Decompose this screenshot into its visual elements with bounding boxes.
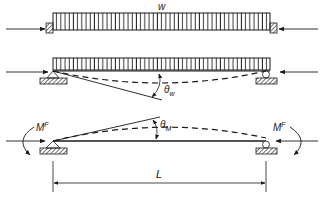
fixed-support-right [270,23,277,33]
panel-fixed-end-beam: w [6,1,318,33]
load-label-w: w [158,1,166,12]
panel-moment-rotation: θM MF MF L [6,117,318,192]
roller-support-right [263,141,270,148]
ground-hatch-right [256,78,277,84]
fixed-support-left [46,23,53,33]
ground-hatch-right [256,148,277,154]
uniform-load-block [53,58,270,70]
moment-label-right: MF [273,121,286,133]
pin-support-left [46,141,60,148]
ground-hatch-left [40,148,67,154]
rotation-arc-theta-m [153,120,157,139]
moment-label-left: MF [36,121,49,133]
beam-diagram: w θw [0,0,323,197]
panel-load-rotation: θw [6,58,318,100]
rotation-arc-theta-w [152,74,160,97]
theta-m-label: θM [160,119,171,132]
span-label-L: L [156,168,162,180]
end-tangent-line [53,71,162,100]
ground-hatch-left [40,78,67,84]
uniform-load-block [53,13,270,30]
end-tangent-line [53,117,160,141]
theta-w-label: θw [164,84,175,97]
